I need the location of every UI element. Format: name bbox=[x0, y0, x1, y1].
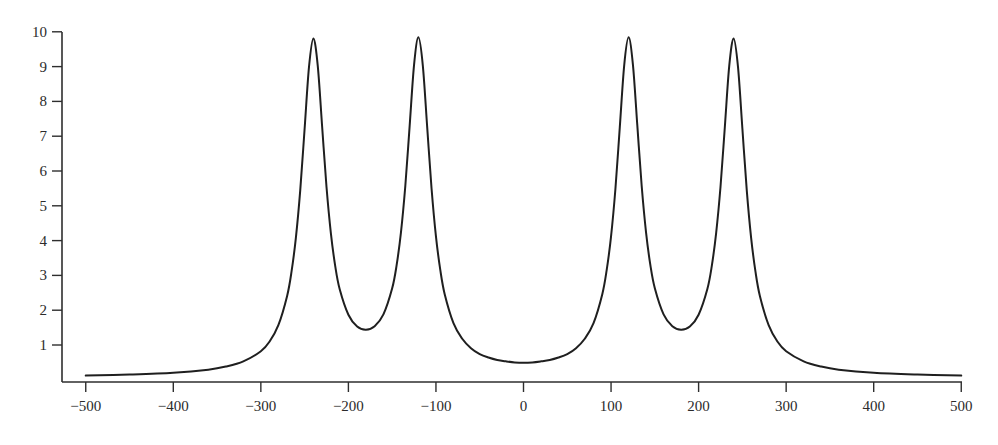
y-tick-label: 10 bbox=[32, 24, 47, 40]
y-tick-label: 3 bbox=[40, 267, 48, 283]
x-tick-label: 300 bbox=[775, 398, 798, 414]
x-tick-label: −500 bbox=[70, 398, 101, 414]
x-tick-label: 500 bbox=[950, 398, 973, 414]
x-tick-label: 0 bbox=[520, 398, 528, 414]
y-tick-label: 2 bbox=[40, 302, 48, 318]
y-tick-label: 5 bbox=[40, 198, 48, 214]
x-tick-label: −200 bbox=[333, 398, 364, 414]
y-axis-ticks: 12345678910 bbox=[32, 24, 62, 353]
y-tick-label: 6 bbox=[40, 163, 48, 179]
y-tick-label: 8 bbox=[40, 93, 48, 109]
x-tick-label: −400 bbox=[158, 398, 189, 414]
data-series-curve bbox=[86, 37, 962, 375]
x-tick-label: −100 bbox=[420, 398, 451, 414]
plot-area: −500−400−300−200−1000100200300400500 123… bbox=[32, 24, 973, 414]
x-axis-ticks: −500−400−300−200−1000100200300400500 bbox=[70, 382, 972, 414]
line-chart: −500−400−300−200−1000100200300400500 123… bbox=[0, 0, 998, 445]
x-tick-label: 200 bbox=[687, 398, 710, 414]
x-tick-label: 100 bbox=[600, 398, 623, 414]
y-tick-label: 7 bbox=[40, 128, 48, 144]
x-tick-label: −300 bbox=[245, 398, 276, 414]
y-tick-label: 9 bbox=[40, 59, 48, 75]
y-tick-label: 4 bbox=[40, 233, 48, 249]
y-tick-label: 1 bbox=[40, 337, 48, 353]
x-tick-label: 400 bbox=[862, 398, 885, 414]
